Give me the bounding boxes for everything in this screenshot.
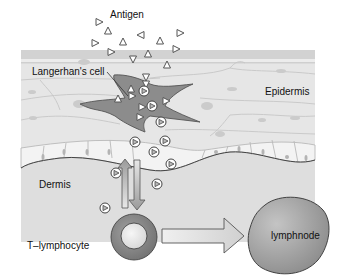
label-langerhans-cell: Langerhan's cell [32, 67, 105, 77]
stratum-corneum [21, 50, 315, 59]
label-lymphnode: lymphnode [271, 231, 320, 241]
label-dermis: Dermis [39, 180, 71, 190]
t-lymphocyte-nucleus [121, 223, 147, 249]
label-antigen: Antigen [110, 10, 144, 20]
label-epidermis: Epidermis [265, 87, 309, 97]
label-t-lymphocyte: T–lymphocyte [27, 241, 89, 251]
